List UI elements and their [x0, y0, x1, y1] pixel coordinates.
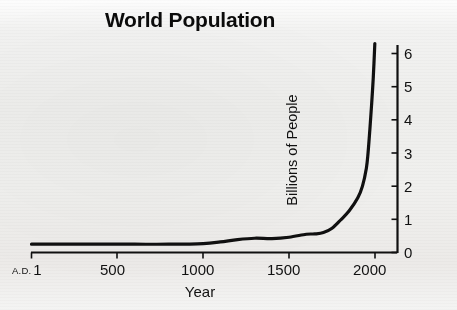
y-tick-label-4: 4	[404, 112, 420, 127]
x-axis-title: Year	[0, 283, 400, 300]
population-curve	[32, 44, 375, 245]
y-tick-label-0: 0	[404, 245, 420, 260]
y-tick-label-6: 6	[404, 46, 420, 61]
x-tick-label-1000: 1000	[181, 262, 214, 277]
y-tick-label-5: 5	[404, 79, 420, 94]
plot-area	[0, 0, 457, 310]
chart-figure: World Population 0 1 2 3 4 5	[0, 0, 457, 310]
y-tick-label-3: 3	[404, 146, 420, 161]
x-tick-label-1: A.D.1	[12, 262, 42, 278]
x-tick-label-1500: 1500	[267, 262, 300, 277]
x-tick-label-2000: 2000	[353, 262, 386, 277]
ad-prefix: A.D.	[12, 265, 31, 276]
y-axis-title: Billions of People	[284, 80, 304, 220]
y-tick-label-2: 2	[404, 179, 420, 194]
y-tick-label-1: 1	[404, 212, 420, 227]
x-tick-label-500: 500	[100, 262, 125, 277]
x-tick-label-1-value: 1	[33, 261, 41, 278]
